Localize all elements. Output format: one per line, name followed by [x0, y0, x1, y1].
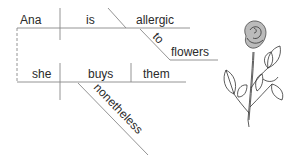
- word-allergic: allergic: [136, 13, 174, 27]
- word-buys: buys: [88, 67, 113, 81]
- word-them: them: [143, 67, 170, 81]
- diagram-canvas: Ana is allergic to flowers she buys them…: [0, 0, 298, 168]
- word-nonetheless: nonetheless: [91, 80, 146, 136]
- rose-icon: [224, 21, 283, 127]
- word-to: to: [150, 29, 167, 46]
- complement-slash: [108, 8, 126, 28]
- word-flowers: flowers: [171, 45, 209, 59]
- word-she: she: [32, 67, 52, 81]
- word-is: is: [86, 13, 95, 27]
- sentence-diagram: Ana is allergic to flowers she buys them…: [0, 0, 298, 168]
- word-ana: Ana: [20, 13, 42, 27]
